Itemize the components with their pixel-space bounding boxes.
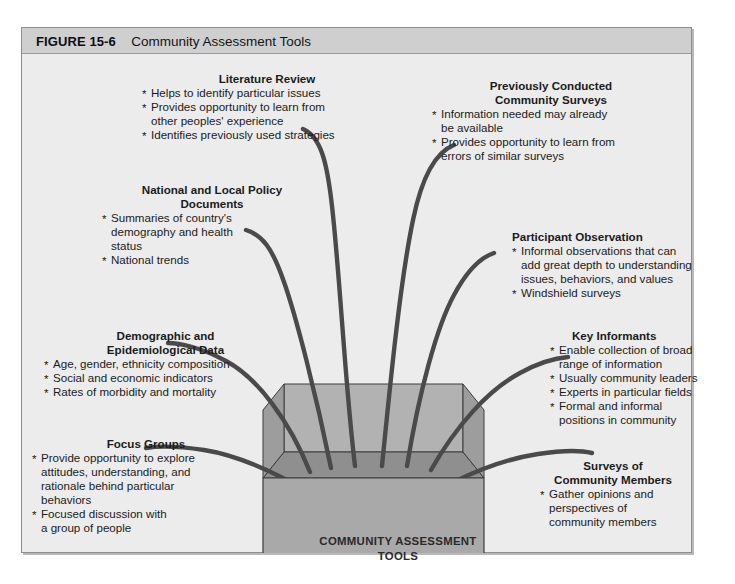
tool-heading: Previously Conducted Community Surveys <box>432 79 670 107</box>
tool-bullet-list: Information needed may already be availa… <box>432 107 670 163</box>
figure-panel: FIGURE 15-6 Community Assessment Tools <box>21 27 692 553</box>
tool-bullet: Informal observations that can add great… <box>512 244 730 286</box>
tool-heading: Surveys of Community Members <box>518 459 708 487</box>
tool-block-previously-conducted-community-surveys: Previously Conducted Community Surveys I… <box>432 79 670 163</box>
tool-bullet-list: Age, gender, ethnicity composition Socia… <box>44 357 287 399</box>
tool-block-focus-groups: Focus Groups Provide opportunity to expl… <box>32 437 260 536</box>
tool-block-demographic-and-epidemiological-data: Demographic and Epidemiological Data Age… <box>44 329 287 399</box>
figure-caption: FIGURE 15-6 Community Assessment Tools <box>36 32 311 50</box>
tool-bullet-list: Helps to identify particular issues Prov… <box>142 86 392 142</box>
tool-block-participant-observation: Participant Observation Informal observa… <box>512 230 730 300</box>
tool-heading: Literature Review <box>142 72 392 86</box>
tool-heading: Participant Observation <box>512 230 730 244</box>
tool-bullet: Rates of morbidity and mortality <box>44 385 287 399</box>
tool-heading: National and Local Policy Documents <box>102 183 322 211</box>
box-inner-floor <box>263 452 484 478</box>
tool-bullet-list: Gather opinions and perspectives of comm… <box>518 487 708 529</box>
tool-block-literature-review: Literature Review Helps to identify part… <box>142 72 392 142</box>
tool-bullet: Provides opportunity to learn from error… <box>432 135 670 163</box>
tool-bullet: Focused discussion with a group of peopl… <box>32 507 260 535</box>
tool-bullet: Helps to identify particular issues <box>142 86 392 100</box>
tool-bullet: Identifies previously used strategies <box>142 128 392 142</box>
figure-caption-bar: FIGURE 15-6 Community Assessment Tools <box>22 28 691 54</box>
tool-bullet: Enable collection of broad range of info… <box>550 343 735 371</box>
box-inner-back-wall <box>284 384 463 452</box>
figure-number: FIGURE 15-6 <box>36 34 116 49</box>
tool-bullet: Experts in particular fields <box>550 385 735 399</box>
tool-bullet-list: Summaries of country's demography and he… <box>102 211 322 267</box>
tool-block-national-and-local-policy-documents: National and Local Policy Documents Summ… <box>102 183 322 267</box>
box-caption: COMMUNITY ASSESSMENT TOOLS <box>290 534 506 563</box>
tool-bullet-list: Provide opportunity to explore attitudes… <box>32 451 260 536</box>
tool-bullet: Provides opportunity to learn from other… <box>142 100 392 128</box>
tool-block-key-informants: Key Informants Enable collection of broa… <box>550 329 735 428</box>
tool-heading: Demographic and Epidemiological Data <box>44 329 287 357</box>
tool-bullet-list: Enable collection of broad range of info… <box>550 343 735 428</box>
diagram-canvas: COMMUNITY ASSESSMENT TOOLS Literature Re… <box>22 54 691 553</box>
tool-heading: Focus Groups <box>32 437 260 451</box>
tool-block-surveys-of-community-members: Surveys of Community Members Gather opin… <box>518 459 708 529</box>
tool-bullet: Usually community leaders <box>550 371 735 385</box>
tool-bullet: Gather opinions and perspectives of comm… <box>540 487 708 529</box>
community-assessment-tools-box <box>263 384 484 478</box>
tool-bullet: Age, gender, ethnicity composition <box>44 357 287 371</box>
box-caption-line-1: COMMUNITY ASSESSMENT <box>290 534 506 549</box>
tool-bullet: Formal and informal positions in communi… <box>550 399 735 427</box>
tool-heading: Key Informants <box>550 329 735 343</box>
box-caption-line-2: TOOLS <box>290 549 506 564</box>
tool-bullet: National trends <box>102 253 322 267</box>
tool-bullet: Information needed may already be availa… <box>432 107 670 135</box>
tool-bullet: Provide opportunity to explore attitudes… <box>32 451 260 507</box>
tool-bullet: Social and economic indicators <box>44 371 287 385</box>
tool-bullet-list: Informal observations that can add great… <box>512 244 730 300</box>
tool-bullet: Windshield surveys <box>512 286 730 300</box>
figure-title: Community Assessment Tools <box>131 34 311 49</box>
tool-bullet: Summaries of country's demography and he… <box>102 211 322 253</box>
